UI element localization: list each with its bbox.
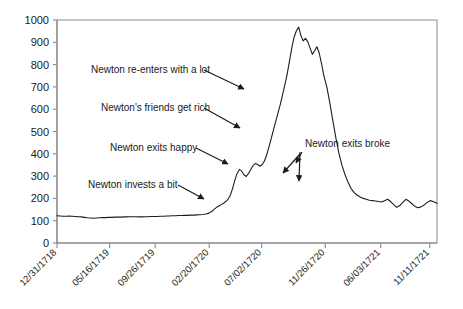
annotation-newton-re-enters-with-a-lot: Newton re-enters with a lot: [91, 64, 244, 89]
y-axis-tick-label: 400: [31, 148, 49, 160]
y-axis-tick-label: 700: [31, 81, 49, 93]
plot-frame: [57, 20, 437, 243]
y-axis-tick-label: 100: [31, 215, 49, 227]
annotation-label: Newton's friends get rich: [101, 102, 210, 113]
annotation-newton-exits-happy: Newton exits happy: [110, 142, 228, 164]
x-axis-tick-label: 07/02/1720: [222, 247, 263, 288]
annotation-arrow: [204, 70, 244, 89]
annotation-label: Newton exits broke: [305, 138, 390, 149]
x-axis-tick-label: 06/03/1721: [341, 247, 382, 288]
y-axis-tick-label: 500: [31, 126, 49, 138]
y-axis-tick-label: 1000: [25, 14, 49, 26]
y-axis-tick-label: 800: [31, 59, 49, 71]
annotation-arrow-3: [283, 154, 300, 173]
x-axis-tick-label: 11/11/1721: [391, 247, 431, 287]
x-axis-tick-label: 12/31/1718: [17, 247, 58, 288]
x-axis-tick-label: 09/26/1719: [115, 247, 156, 288]
y-axis-tick-label: 300: [31, 170, 49, 182]
x-axis-tick-label: 02/20/1720: [169, 247, 210, 288]
annotation-newtons-friends-get-rich: Newton's friends get rich: [101, 102, 240, 128]
annotation-label: Newton invests a bit: [88, 179, 178, 190]
y-axis-tick-label: 600: [31, 103, 49, 115]
annotation-arrow: [178, 185, 204, 199]
x-axis-tick-label: 05/16/1719: [70, 247, 111, 288]
annotation-newton-invests-a-bit: Newton invests a bit: [88, 179, 204, 199]
x-axis-tick-label: 11/26/1720: [286, 247, 327, 288]
y-axis-tick-label: 900: [31, 36, 49, 48]
annotation-newton-exits-broke: Newton exits broke: [283, 138, 390, 181]
annotation-label: Newton re-enters with a lot: [91, 64, 210, 75]
chart-container: 0100200300400500600700800900100012/31/17…: [0, 0, 463, 309]
y-axis-tick-label: 0: [43, 237, 49, 249]
south-sea-bubble-chart: 0100200300400500600700800900100012/31/17…: [0, 0, 463, 309]
annotation-label: Newton exits happy: [110, 142, 197, 153]
annotation-arrow: [204, 108, 240, 128]
annotation-arrow: [196, 148, 228, 164]
y-axis-tick-label: 200: [31, 192, 49, 204]
